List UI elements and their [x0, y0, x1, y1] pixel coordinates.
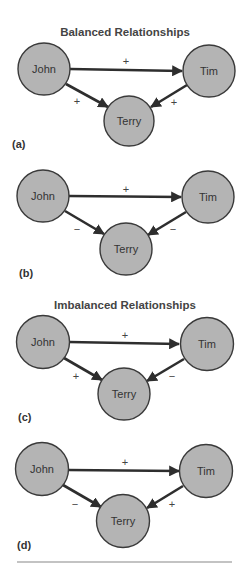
sign-john-terry: − [74, 223, 80, 235]
edge-john-terry [65, 211, 104, 234]
edge-john-terry [63, 485, 101, 507]
panel-label-c: (c) [18, 411, 32, 423]
sign-tim-terry: + [169, 498, 175, 510]
edge-tim-terry [151, 85, 187, 107]
sign-john-terry: − [72, 498, 78, 510]
edge-john-terry [66, 84, 108, 107]
sign-tim-terry: − [170, 223, 176, 235]
edge-john-terry [64, 358, 102, 380]
tim-label: Tim [200, 65, 218, 77]
edge-john-tim [70, 69, 182, 71]
edge-john-tim [69, 342, 179, 344]
tim-label: Tim [197, 465, 215, 477]
sign-john-tim: + [122, 329, 128, 341]
panel-label-b: (b) [19, 267, 33, 279]
sign-tim-terry: − [169, 370, 175, 382]
sign-john-tim: + [123, 55, 129, 67]
edge-tim-terry [147, 486, 183, 508]
sign-john-tim: + [123, 183, 129, 195]
john-label: John [30, 463, 54, 475]
tim-label: Tim [198, 338, 216, 350]
panel-a: John Tim Terry + + + (a) [12, 43, 235, 150]
panel-label-d: (d) [17, 539, 31, 551]
terry-label: Terry [114, 243, 139, 255]
sign-john-terry: + [73, 370, 79, 382]
terry-label: Terry [111, 515, 136, 527]
edge-tim-terry [147, 359, 184, 381]
sign-john-terry: + [74, 95, 80, 107]
imbalanced-title: Imbalanced Relationships [54, 299, 196, 311]
sign-tim-terry: + [171, 96, 177, 108]
john-label: John [32, 63, 56, 75]
sign-john-tim: + [122, 456, 128, 468]
panel-b: John Tim Terry + − − (b) [17, 170, 234, 279]
balance-theory-diagram: Balanced Relationships John Tim Terry + … [0, 0, 247, 565]
john-label: John [31, 190, 55, 202]
panel-d: John Tim Terry + − + (d) [16, 443, 233, 552]
terry-label: Terry [117, 115, 142, 127]
panel-label-a: (a) [12, 138, 26, 150]
john-label: John [31, 336, 55, 348]
balanced-title: Balanced Relationships [60, 26, 190, 38]
edge-john-tim [69, 196, 181, 197]
edge-tim-terry [148, 212, 186, 235]
terry-label: Terry [112, 388, 137, 400]
tim-label: Tim [199, 191, 217, 203]
edge-john-tim [68, 470, 179, 471]
panel-c: John Tim Terry + + − (c) [17, 316, 234, 424]
